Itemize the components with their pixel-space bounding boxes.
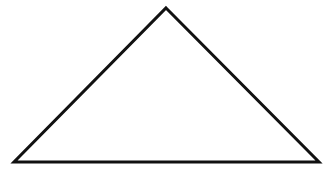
triangle-shape	[14, 8, 319, 162]
triangle-diagram	[0, 0, 334, 179]
diagram-canvas	[0, 0, 334, 179]
